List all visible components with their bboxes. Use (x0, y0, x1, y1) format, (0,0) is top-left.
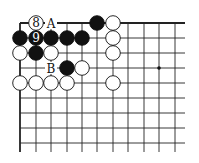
black-stone (13, 31, 28, 46)
position-marker-b: B (47, 62, 56, 76)
white-stone (106, 16, 121, 31)
white-stone (60, 76, 75, 91)
move-number: 9 (32, 31, 40, 45)
star-point (157, 66, 161, 70)
white-stone (75, 61, 90, 76)
white-stone (13, 46, 28, 61)
black-stone (90, 16, 105, 31)
white-stone (13, 76, 28, 91)
white-stone (44, 46, 59, 61)
black-stone (60, 31, 75, 46)
white-stone (29, 76, 44, 91)
black-stone (44, 31, 59, 46)
white-stone (106, 31, 121, 46)
move-number: 8 (32, 16, 40, 30)
white-stone (44, 76, 59, 91)
black-stone (29, 46, 44, 61)
black-stone (60, 61, 75, 76)
go-board: AB89 (0, 0, 199, 163)
black-stone (75, 31, 90, 46)
white-stone (106, 76, 121, 91)
white-stone (106, 46, 121, 61)
position-marker-a: A (46, 17, 56, 31)
